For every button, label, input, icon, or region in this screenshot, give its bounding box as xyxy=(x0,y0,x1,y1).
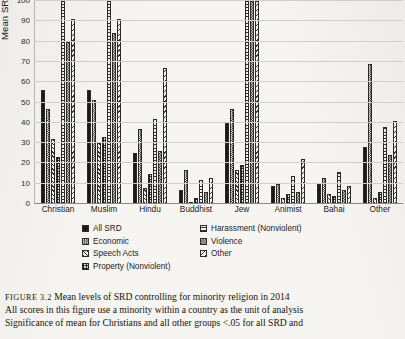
bar-jew-speech-acts xyxy=(235,170,239,205)
bar-animist-economic xyxy=(276,184,280,204)
bar-bahai-harassment-nonviolent xyxy=(337,172,341,204)
bar-chart-plot: Mean SRD as % of highest scoring group 1… xyxy=(0,0,405,204)
bar-christian-economic xyxy=(46,109,50,204)
bar-animist-all-srd xyxy=(271,186,275,204)
figure-title: Mean levels of SRD controlling for minor… xyxy=(54,291,289,302)
bar-christian-speech-acts xyxy=(51,139,55,204)
bar-animist-harassment-nonviolent xyxy=(291,176,295,204)
bar-jew-property-nonviolent xyxy=(240,165,244,204)
x-axis-baseline xyxy=(34,203,403,204)
y-axis-tick-60: 60 xyxy=(8,77,30,86)
legend-item-all-srd: All SRD xyxy=(82,224,200,233)
bar-christian-harassment-nonviolent xyxy=(61,1,65,204)
y-axis-tick-column: 1009080706050403020100 xyxy=(4,0,30,204)
bar-bahai-economic xyxy=(322,178,326,204)
y-axis-tick-30: 30 xyxy=(8,138,30,147)
x-axis-label-hindu: Hindu xyxy=(127,204,173,214)
x-axis-label-other: Other xyxy=(357,204,403,214)
bar-bahai-violence xyxy=(342,190,346,204)
legend-label: All SRD xyxy=(93,224,122,233)
bar-buddhist-all-srd xyxy=(179,190,183,204)
y-axis-tick-20: 20 xyxy=(8,158,30,167)
bar-buddhist-other xyxy=(209,178,213,204)
grid-hatch-swatch xyxy=(82,263,89,270)
bar-muslim-other xyxy=(117,19,121,204)
x-axis-labels: ChristianMuslimHinduBuddhistJewAnimistBa… xyxy=(35,204,403,214)
y-axis-tick-90: 90 xyxy=(8,16,30,25)
bar-other-all-srd xyxy=(363,147,367,204)
legend-label: Economic xyxy=(93,237,129,246)
x-axis-label-bahai: Bahai xyxy=(311,204,357,214)
diagonal-hatch-swatch xyxy=(82,250,89,257)
gridline-70 xyxy=(34,61,403,62)
figure-note-line-1: All scores in this figure use a minority… xyxy=(5,304,401,316)
bar-hindu-all-srd xyxy=(133,153,137,204)
bar-bahai-all-srd xyxy=(317,184,321,204)
x-axis-label-christian: Christian xyxy=(35,204,81,214)
x-axis-label-buddhist: Buddhist xyxy=(173,204,219,214)
bar-hindu-speech-acts xyxy=(143,188,147,204)
bar-christian-all-srd xyxy=(41,90,45,204)
y-axis-tick-40: 40 xyxy=(8,117,30,126)
x-axis-label-jew: Jew xyxy=(219,204,265,214)
bar-muslim-speech-acts xyxy=(97,143,101,204)
bar-christian-property-nonviolent xyxy=(56,157,60,204)
gridline-40 xyxy=(34,122,403,123)
y-axis-tick-0: 0 xyxy=(8,199,30,208)
bar-muslim-property-nonviolent xyxy=(102,137,106,204)
bar-hindu-economic xyxy=(138,129,142,204)
gridline-60 xyxy=(34,81,403,82)
legend-item-other: Other xyxy=(200,249,350,258)
chart-legend: All SRDHarassment (Nonviolent)EconomicVi… xyxy=(82,224,352,271)
checker-swatch xyxy=(82,238,89,245)
y-axis-tick-100: 100 xyxy=(8,0,30,5)
bar-muslim-all-srd xyxy=(87,90,91,204)
legend-item-economic: Economic xyxy=(82,237,200,246)
y-axis-tick-80: 80 xyxy=(8,36,30,45)
bar-jew-economic xyxy=(230,109,234,204)
solid-black-swatch xyxy=(82,225,89,232)
legend-label: Harassment (Nonviolent) xyxy=(211,224,302,233)
bar-christian-violence xyxy=(66,42,70,204)
gridline-90 xyxy=(34,20,403,21)
gridline-80 xyxy=(34,41,403,42)
gridline-20 xyxy=(34,162,403,163)
y-axis-tick-50: 50 xyxy=(8,97,30,106)
bar-animist-other xyxy=(301,159,305,204)
bar-jew-all-srd xyxy=(225,123,229,204)
figure-caption: FIGURE 3.2 Mean levels of SRD controllin… xyxy=(5,291,401,329)
y-axis-tick-10: 10 xyxy=(8,178,30,187)
back-diagonal-hatch-swatch xyxy=(200,250,207,257)
fine-checker-swatch xyxy=(200,238,207,245)
bar-jew-harassment-nonviolent xyxy=(245,1,249,204)
legend-item-property-nonviolent: Property (Nonviolent) xyxy=(82,262,200,271)
bar-muslim-harassment-nonviolent xyxy=(107,1,111,204)
bar-hindu-property-nonviolent xyxy=(148,174,152,204)
horizontal-hatch-swatch xyxy=(200,225,207,232)
bar-bahai-other xyxy=(347,186,351,204)
bar-buddhist-economic xyxy=(184,170,188,205)
bar-christian-other xyxy=(71,19,75,204)
legend-item-harassment-nonviolent: Harassment (Nonviolent) xyxy=(200,224,350,233)
bar-other-harassment-nonviolent xyxy=(383,127,387,204)
legend-label: Property (Nonviolent) xyxy=(93,262,170,271)
bar-jew-other xyxy=(255,1,259,204)
gridline-10 xyxy=(34,183,403,184)
legend-item-violence: Violence xyxy=(200,237,350,246)
legend-label: Other xyxy=(211,249,231,258)
figure-note-line-2: Significance of mean for Christians and … xyxy=(5,317,401,329)
bar-hindu-violence xyxy=(158,151,162,204)
x-axis-label-animist: Animist xyxy=(265,204,311,214)
x-axis-label-muslim: Muslim xyxy=(81,204,127,214)
bar-hindu-harassment-nonviolent xyxy=(153,119,157,204)
bar-muslim-economic xyxy=(92,100,96,204)
bar-jew-violence xyxy=(250,1,254,204)
legend-label: Speech Acts xyxy=(93,249,139,258)
gridline-30 xyxy=(34,142,403,143)
legend-label: Violence xyxy=(211,237,242,246)
legend-item-speech-acts: Speech Acts xyxy=(82,249,200,258)
gridline-50 xyxy=(34,102,403,103)
y-axis-tick-70: 70 xyxy=(8,56,30,65)
figure-number: FIGURE 3.2 xyxy=(5,293,52,302)
gridline-100 xyxy=(34,0,403,1)
